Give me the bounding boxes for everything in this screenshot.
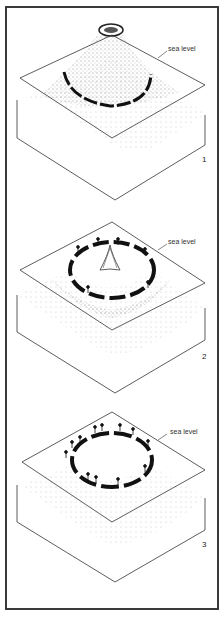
sea-level-label-2: sea level [168, 238, 196, 245]
sea-level-label-3: sea level [170, 428, 198, 435]
stage-1-panel: sea level 1 [0, 0, 224, 200]
stage-3-diagram [0, 410, 224, 620]
stage-number-1: 1 [202, 155, 206, 164]
stage-2-panel: sea level 2 [0, 200, 224, 400]
stage-1-diagram [0, 0, 224, 210]
sea-level-label-1: sea level [168, 45, 196, 52]
stage-number-2: 2 [202, 352, 206, 361]
stage-2-diagram [0, 200, 224, 410]
stage-number-3: 3 [202, 540, 206, 549]
stage-3-panel: sea level 3 [0, 410, 224, 610]
